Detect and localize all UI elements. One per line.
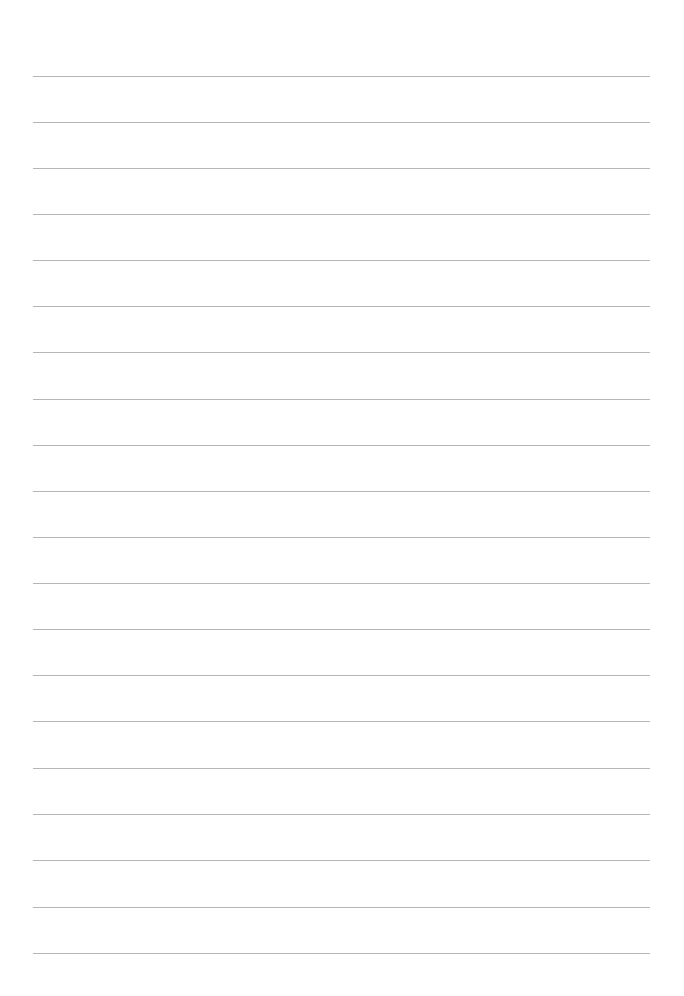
ruled-line (33, 953, 650, 954)
ruled-line (33, 76, 650, 77)
ruled-line (33, 399, 650, 400)
lined-page (0, 0, 684, 996)
ruled-line (33, 537, 650, 538)
ruled-line (33, 629, 650, 630)
ruled-line (33, 860, 650, 861)
ruled-line (33, 260, 650, 261)
ruled-line (33, 122, 650, 123)
ruled-line (33, 352, 650, 353)
ruled-line (33, 306, 650, 307)
ruled-line (33, 721, 650, 722)
ruled-line (33, 907, 650, 908)
ruled-line (33, 583, 650, 584)
ruled-line (33, 768, 650, 769)
ruled-line (33, 168, 650, 169)
ruled-line (33, 491, 650, 492)
ruled-line (33, 214, 650, 215)
ruled-line (33, 675, 650, 676)
ruled-line (33, 445, 650, 446)
ruled-line (33, 814, 650, 815)
